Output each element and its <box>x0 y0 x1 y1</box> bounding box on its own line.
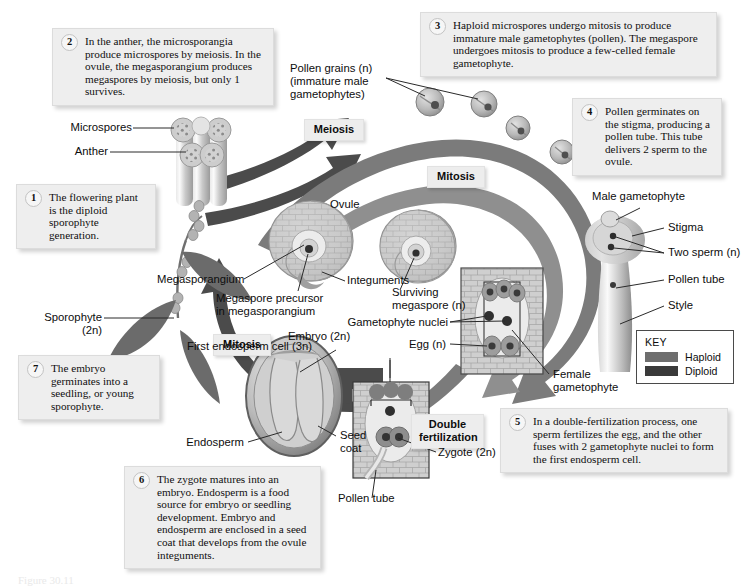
step-callout-2: 2 In the anther, the microsporangia prod… <box>52 28 274 106</box>
label-megaspore-precursor: Megaspore precursor in megasporangium <box>216 292 342 318</box>
pollen-grain <box>550 140 574 164</box>
female-gametophyte-inset <box>450 268 549 374</box>
label-stigma: Stigma <box>668 221 722 234</box>
pollen-grain <box>471 91 497 117</box>
label-embryo: Embryo (2n) <box>288 330 360 343</box>
key-label: Diploid <box>685 365 717 377</box>
stage-label-mitosis-top: Mitosis <box>427 166 485 188</box>
step-number: 7 <box>27 361 44 378</box>
step-callout-1: 1 The flowering plant is the diploid spo… <box>16 184 156 249</box>
label-endosperm: Endosperm <box>166 436 244 449</box>
label-seed-coat: Seed coat <box>340 429 378 455</box>
label-style: Style <box>668 299 712 312</box>
step-number: 4 <box>581 104 598 121</box>
step-number: 5 <box>509 414 526 431</box>
diploid-swatch <box>645 366 678 376</box>
haploid-swatch <box>645 352 678 362</box>
label-sporophyte: Sporophyte (2n) <box>22 311 102 337</box>
label-gametophyte-nuclei: Gametophyte nuclei <box>330 316 448 329</box>
label-microspores: Microspores <box>52 121 132 134</box>
step-text: Haploid microspores undergo mitosis to p… <box>453 19 707 69</box>
step-number: 6 <box>133 472 150 489</box>
stage-label-double-fertilization: Double fertilization <box>411 414 484 449</box>
key-entry-haploid: Haploid <box>645 351 725 363</box>
label-anther: Anther <box>52 145 108 158</box>
step-callout-4: 4 Pollen germinates on the stigma, produ… <box>572 98 722 176</box>
label-egg: Egg (n) <box>388 338 446 351</box>
step-text: The flowering plant is the diploid sporo… <box>49 191 146 241</box>
step-callout-6: 6 The zygote matures into an embryo. End… <box>124 466 321 569</box>
pollen-grain <box>506 116 530 140</box>
label-megasporangium: Megasporangium <box>157 273 243 286</box>
step-number: 1 <box>25 190 42 207</box>
label-pollen-grains: Pollen grains (n) (immature male gametop… <box>290 62 386 101</box>
angiosperm-life-cycle-figure: 2 In the anther, the microsporangia prod… <box>0 0 747 588</box>
label-pollen-tube-right: Pollen tube <box>668 273 738 286</box>
step-callout-3: 3 Haploid microspores undergo mitosis to… <box>420 12 717 77</box>
figure-caption: Figure 30.11 <box>18 574 74 586</box>
step-number: 3 <box>429 18 446 35</box>
pollen-grain <box>416 88 444 116</box>
key-label: Haploid <box>685 351 721 363</box>
key-box: KEY Haploid Diploid <box>636 330 734 384</box>
label-pollen-tube-bottom: Pollen tube <box>338 492 408 505</box>
step-text: The zygote matures into an embryo. Endos… <box>157 473 311 561</box>
key-entry-diploid: Diploid <box>645 365 725 377</box>
step-text: The embryo germinates into a seedling, o… <box>51 362 150 412</box>
label-female-gametophyte: Female gametophyte <box>553 368 629 394</box>
step-text: In the anther, the microsporangia produc… <box>85 35 264 98</box>
step-callout-5: 5 In a double-fertilization process, one… <box>500 408 728 473</box>
label-male-gametophyte: Male gametophyte <box>592 190 702 203</box>
label-zygote: Zygote (2n) <box>438 446 510 459</box>
label-two-sperm: Two sperm (n) <box>668 246 744 259</box>
step-number: 2 <box>61 34 78 51</box>
stage-label-meiosis: Meiosis <box>304 119 364 141</box>
step-text: In a double-fertilization process, one s… <box>533 415 718 465</box>
step-text: Pollen germinates on the stigma, produci… <box>605 105 712 168</box>
label-surviving-megaspore: Surviving megaspore (n) <box>392 286 476 312</box>
label-ovule: Ovule <box>330 198 374 211</box>
key-title: KEY <box>645 336 725 348</box>
step-callout-7: 7 The embryo germinates into a seedling,… <box>18 355 160 420</box>
